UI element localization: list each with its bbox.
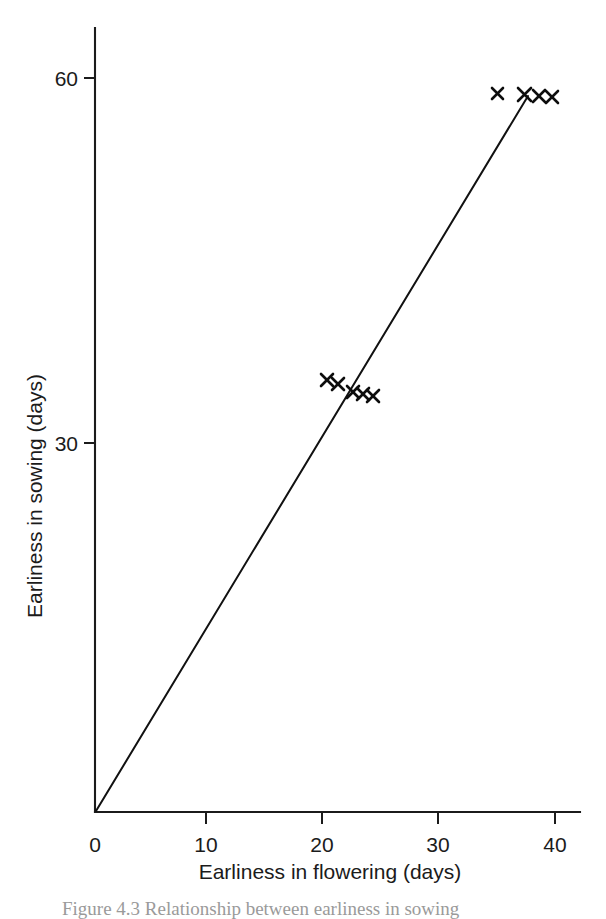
y-tick-label-60: 60 [55,67,78,90]
y-tick-marks [84,78,95,443]
scatter-plot: 60 30 0 10 20 30 40 Earliness in floweri… [0,0,606,919]
data-point-marker [518,88,531,101]
y-tick-label-30: 30 [55,432,78,455]
figure-container: 60 30 0 10 20 30 40 Earliness in floweri… [0,0,606,919]
x-tick-label-0: 0 [89,833,101,856]
data-markers-group [321,88,558,402]
data-point-marker [546,91,558,103]
axes-group [95,28,580,812]
x-tick-label-40: 40 [543,833,566,856]
y-axis-title: Earliness in sowing (days) [23,374,46,618]
fit-line-group [96,96,528,811]
x-tick-labels: 0 10 20 30 40 [89,833,567,856]
data-point-marker [321,374,333,386]
regression-line [96,96,528,811]
x-axis-title: Earliness in flowering (days) [199,860,462,883]
data-point-marker [492,88,503,99]
y-tick-labels: 60 30 [55,67,78,455]
data-point-marker [332,378,344,390]
x-tick-marks [206,812,555,824]
data-point-marker [533,90,545,102]
x-tick-label-20: 20 [310,833,333,856]
data-point-marker [367,390,379,402]
x-tick-label-30: 30 [426,833,449,856]
x-tick-label-10: 10 [194,833,217,856]
figure-caption: Figure 4.3 Relationship between earlines… [62,899,562,919]
